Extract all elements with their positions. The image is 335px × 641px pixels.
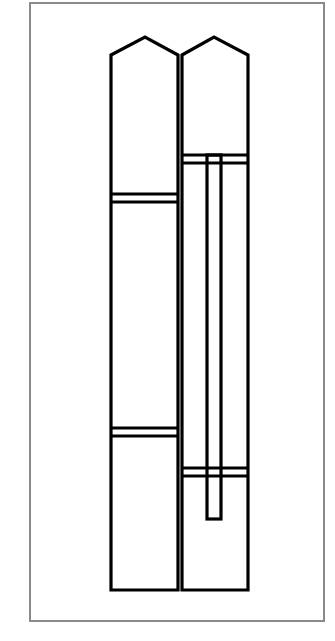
door-diagram xyxy=(0,0,335,641)
vertical-bar xyxy=(207,155,221,519)
left-leaf xyxy=(111,37,178,590)
right-leaf xyxy=(182,37,248,590)
